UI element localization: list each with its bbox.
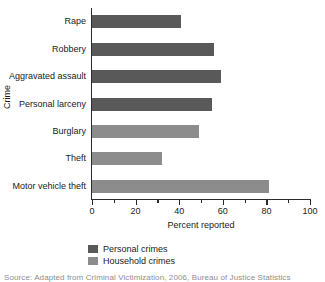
plot-area <box>92 8 310 200</box>
legend-item: Household crimes <box>88 255 175 266</box>
x-tick-major-100 <box>310 200 311 205</box>
bar-fill <box>92 15 181 28</box>
x-tick-label-100: 100 <box>290 206 325 216</box>
x-tick-label-0: 0 <box>72 206 112 216</box>
y-tick-label-burglary: Burglary <box>52 126 86 137</box>
bar-aggravated-assault <box>92 70 221 83</box>
x-tick-major-60 <box>223 200 224 205</box>
bar-burglary <box>92 125 199 138</box>
bar-robbery <box>92 43 214 56</box>
x-tick-major-20 <box>136 200 137 205</box>
bar-chart-figure: Crime RapeRobberyAggravated assaultPerso… <box>0 0 325 282</box>
y-tick-label-theft: Theft <box>65 153 86 164</box>
x-tick-minor-50 <box>201 200 202 203</box>
x-tick-major-0 <box>92 200 93 205</box>
legend-label: Household crimes <box>103 256 175 266</box>
bar-motor-vehicle-theft <box>92 180 269 193</box>
bar-fill <box>92 152 162 165</box>
y-tick-label-rape: Rape <box>64 16 86 27</box>
x-tick-label-80: 80 <box>246 206 286 216</box>
x-tick-minor-30 <box>157 200 158 203</box>
x-tick-minor-70 <box>245 200 246 203</box>
bar-fill <box>92 70 221 83</box>
x-axis-title: Percent reported <box>91 220 311 230</box>
bar-fill <box>92 180 269 193</box>
x-tick-label-20: 20 <box>116 206 156 216</box>
bar-rape <box>92 15 181 28</box>
x-tick-minor-10 <box>114 200 115 203</box>
x-tick-label-60: 60 <box>203 206 243 216</box>
source-note: Source: Adapted from Criminal Victimizat… <box>4 273 291 282</box>
y-tick-label-motor-vehicle-theft: Motor vehicle theft <box>12 181 86 192</box>
legend-item: Personal crimes <box>88 243 175 254</box>
y-tick-label-aggravated-assault: Aggravated assault <box>9 71 86 82</box>
x-tick-major-40 <box>179 200 180 205</box>
chart-legend: Personal crimesHousehold crimes <box>88 243 175 267</box>
legend-swatch-icon <box>88 245 98 253</box>
bar-fill <box>92 98 212 111</box>
bar-personal-larceny <box>92 98 212 111</box>
bar-theft <box>92 152 162 165</box>
y-tick-label-robbery: Robbery <box>52 44 86 55</box>
x-tick-minor-90 <box>288 200 289 203</box>
bar-fill <box>92 125 199 138</box>
x-tick-label-40: 40 <box>159 206 199 216</box>
bar-fill <box>92 43 214 56</box>
x-tick-major-80 <box>266 200 267 205</box>
legend-label: Personal crimes <box>103 244 168 254</box>
legend-swatch-icon <box>88 257 98 265</box>
y-tick-label-personal-larceny: Personal larceny <box>19 99 86 110</box>
